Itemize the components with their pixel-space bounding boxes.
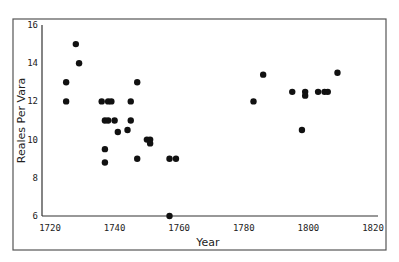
- data-point: [166, 213, 172, 219]
- data-point: [108, 98, 114, 104]
- data-point: [173, 156, 179, 162]
- data-point: [128, 98, 134, 104]
- data-point: [147, 140, 153, 146]
- data-point: [302, 92, 308, 98]
- data-point: [63, 79, 69, 85]
- data-point: [134, 79, 140, 85]
- y-axis-label: Reales Per Vara: [15, 78, 28, 163]
- data-point: [299, 127, 305, 133]
- data-point: [102, 159, 108, 165]
- y-tick-label: 10: [27, 135, 38, 145]
- y-tick-label: 8: [33, 173, 38, 183]
- x-tick-labels: 172017401760178018001820: [39, 223, 384, 233]
- y-tick-label: 16: [27, 20, 38, 30]
- x-axis-label: Year: [195, 236, 220, 249]
- data-point: [325, 89, 331, 95]
- y-tick-label: 12: [27, 96, 38, 106]
- data-point: [289, 89, 295, 95]
- data-point: [166, 156, 172, 162]
- scatter-chart: 6810121416 172017401760178018001820 Real…: [0, 0, 399, 262]
- x-tick-label: 1740: [104, 223, 126, 233]
- data-point: [105, 117, 111, 123]
- data-point: [102, 146, 108, 152]
- chart-frame: [13, 19, 386, 250]
- x-tick-label: 1820: [362, 223, 384, 233]
- x-tick-label: 1720: [39, 223, 61, 233]
- y-tick-label: 6: [33, 211, 38, 221]
- data-point: [134, 156, 140, 162]
- data-point: [115, 129, 121, 135]
- data-point: [124, 127, 130, 133]
- y-tick-label: 14: [27, 58, 38, 68]
- x-tick-label: 1780: [233, 223, 255, 233]
- data-point: [128, 117, 134, 123]
- y-tick-labels: 6810121416: [27, 20, 38, 221]
- data-point: [63, 98, 69, 104]
- data-point: [250, 98, 256, 104]
- data-point: [76, 60, 82, 66]
- x-tick-label: 1800: [298, 223, 320, 233]
- data-points: [63, 41, 341, 219]
- data-point: [111, 117, 117, 123]
- data-point: [98, 98, 104, 104]
- x-tick-label: 1760: [168, 223, 190, 233]
- data-point: [260, 71, 266, 77]
- data-point: [73, 41, 79, 47]
- data-point: [315, 89, 321, 95]
- data-point: [334, 70, 340, 76]
